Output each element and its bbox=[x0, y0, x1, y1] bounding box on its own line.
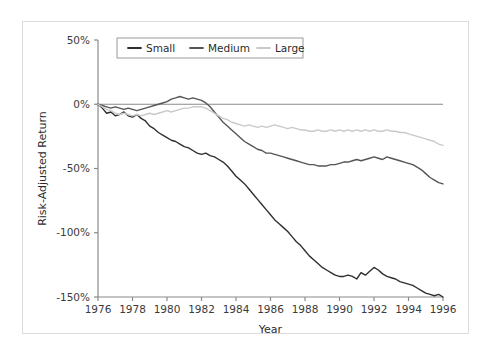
legend-label-small: Small bbox=[146, 42, 175, 54]
x-axis-tick-label: 1980 bbox=[154, 303, 181, 315]
series-line-large bbox=[98, 104, 443, 145]
x-axis-tick-label: 1996 bbox=[430, 303, 457, 315]
y-axis-tick-label: 50% bbox=[67, 34, 90, 46]
x-axis-title: Year bbox=[258, 323, 283, 336]
x-axis-tick-label: 1976 bbox=[85, 303, 112, 315]
legend-label-medium: Medium bbox=[208, 42, 250, 54]
chart-figure: 50%0%-50%-100%-150%197619781980198219841… bbox=[0, 0, 491, 356]
y-axis-tick-label: -150% bbox=[56, 291, 90, 303]
x-axis-tick-label: 1990 bbox=[326, 303, 353, 315]
y-axis-tick-label: -50% bbox=[63, 162, 90, 174]
x-axis-tick-label: 1986 bbox=[257, 303, 284, 315]
x-axis-tick-label: 1988 bbox=[292, 303, 319, 315]
x-axis-tick-label: 1992 bbox=[361, 303, 388, 315]
x-axis-tick-label: 1978 bbox=[119, 303, 146, 315]
y-axis-tick-label: 0% bbox=[73, 98, 90, 110]
legend-label-large: Large bbox=[275, 42, 305, 54]
series-line-small bbox=[98, 104, 443, 297]
x-axis-tick-label: 1982 bbox=[188, 303, 215, 315]
line-chart: 50%0%-50%-100%-150%197619781980198219841… bbox=[0, 0, 491, 356]
y-axis-tick-label: -100% bbox=[56, 226, 90, 238]
x-axis-tick-label: 1994 bbox=[395, 303, 422, 315]
series-line-medium bbox=[98, 97, 443, 184]
y-axis-title: Risk-Adjusted Return bbox=[36, 111, 49, 226]
x-axis-tick-label: 1984 bbox=[223, 303, 250, 315]
